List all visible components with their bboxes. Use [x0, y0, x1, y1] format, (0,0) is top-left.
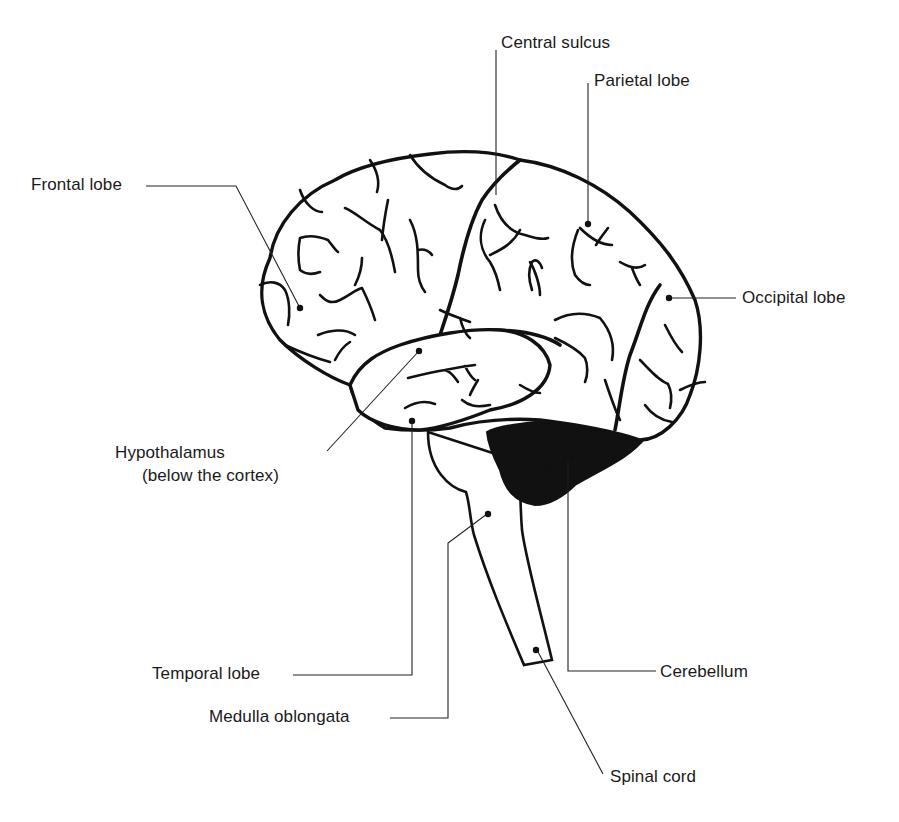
- label-central-sulcus: Central sulcus: [501, 33, 610, 53]
- label-hypothalamus: Hypothalamus: [115, 443, 225, 463]
- brain-diagram: Central sulcus Parietal lobe Frontal lob…: [0, 0, 899, 822]
- label-parietal-lobe: Parietal lobe: [594, 71, 690, 91]
- brain-illustration: [0, 0, 899, 822]
- label-spinal-cord: Spinal cord: [610, 767, 696, 787]
- cerebrum-drawing: [262, 152, 701, 440]
- label-medulla-oblongata: Medulla oblongata: [209, 707, 350, 727]
- label-frontal-lobe: Frontal lobe: [31, 175, 122, 195]
- label-temporal-lobe: Temporal lobe: [152, 664, 260, 684]
- label-occipital-lobe: Occipital lobe: [742, 288, 845, 308]
- label-hypothalamus-note: (below the cortex): [142, 466, 279, 486]
- label-cerebellum: Cerebellum: [660, 662, 748, 682]
